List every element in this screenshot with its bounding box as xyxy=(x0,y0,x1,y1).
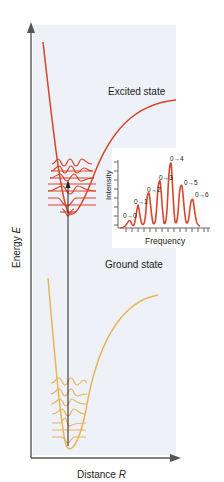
x-axis-label: Distance R xyxy=(77,469,126,480)
label-0-0: 0→0 xyxy=(123,212,137,219)
inset-y-label: Intensity xyxy=(104,170,113,200)
label-0-6: 0→6 xyxy=(195,191,209,198)
x-axis-label-text: Distance xyxy=(77,469,116,480)
svg-text:Energy E: Energy E xyxy=(11,227,22,268)
inset-spectrum: 0→0 0→1 0→2 0→3 0→4 0→5 0→6 Intensity Fr… xyxy=(104,148,224,248)
x-axis xyxy=(31,454,181,462)
label-0-5: 0→5 xyxy=(184,179,198,186)
ground-state-label: Ground state xyxy=(105,259,163,270)
label-0-4: 0→4 xyxy=(170,155,184,162)
y-axis-label: Energy E xyxy=(11,227,22,268)
label-0-1: 0→1 xyxy=(134,198,148,205)
label-0-3: 0→3 xyxy=(159,174,173,181)
excited-state-label: Excited state xyxy=(108,86,166,97)
y-axis-symbol: E xyxy=(11,227,22,234)
label-0-2: 0→2 xyxy=(147,186,161,193)
inset-x-label: Frequency xyxy=(145,236,186,246)
x-axis-arrow-icon xyxy=(170,454,181,462)
x-axis-symbol: R xyxy=(119,469,126,480)
franck-condon-diagram: Excited state Ground state xyxy=(0,0,224,482)
y-axis-label-text: Energy xyxy=(11,236,22,268)
